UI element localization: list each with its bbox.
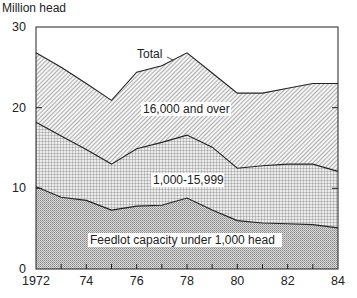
y-tick-label: 10	[12, 181, 26, 195]
x-tick-label: 76	[130, 274, 144, 288]
x-tick-label: 1972	[22, 274, 50, 288]
label-under-1000: Feedlot capacity under 1,000 head	[90, 233, 275, 247]
total-leader-line	[167, 57, 173, 60]
label-total: Total	[137, 47, 162, 61]
x-tick-label: 80	[230, 274, 244, 288]
x-tick-label: 74	[79, 274, 93, 288]
y-tick-label: 30	[12, 20, 26, 34]
y-tick-label: 20	[12, 101, 26, 115]
label-1000-15999: 1,000-15,999	[153, 173, 224, 187]
y-tick-label: 0	[19, 262, 26, 276]
x-tick-label: 82	[281, 274, 295, 288]
label-16000-and-over: 16,000 and over	[143, 102, 230, 116]
y-axis-label: Million head	[2, 1, 66, 15]
x-tick-label: 84	[331, 274, 345, 288]
x-tick-label: 78	[180, 274, 194, 288]
stacked-area-chart: Million head 1972747678808284 0102030 16…	[0, 0, 357, 298]
